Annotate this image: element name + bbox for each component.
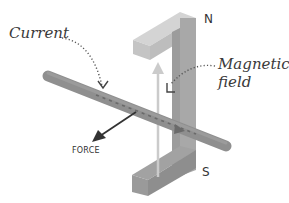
south-pole-label: S — [202, 166, 210, 178]
magnetic-field-label-line2: field — [218, 75, 251, 90]
force-label: FORCE — [72, 147, 100, 155]
motor-effect-diagram: Current Magnetic field N S FORCE — [0, 0, 289, 203]
current-label: Current — [9, 26, 69, 41]
conductor-rod — [48, 73, 226, 146]
current-leader-tip — [98, 81, 108, 88]
north-pole-label: N — [204, 13, 213, 25]
force-arrow — [92, 112, 136, 142]
magnetic-field-label-line1: Magnetic — [218, 57, 289, 72]
magnet — [132, 12, 196, 196]
